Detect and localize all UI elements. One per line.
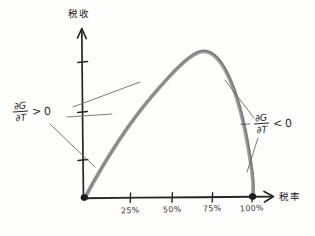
- fraction-right-denominator: ∂T: [255, 124, 268, 134]
- x-axis: [84, 192, 274, 203]
- annotation-right-dash: —: [240, 117, 252, 131]
- laffer-curve: [85, 51, 254, 198]
- fraction-left-numerator: ∂G: [13, 101, 28, 111]
- endpoint-dot-100pct: [249, 193, 256, 200]
- y-axis-label: 税收: [68, 9, 89, 19]
- fraction-left-denominator: ∂T: [14, 112, 27, 122]
- annotation-left-positive-slope: ∂G ∂T > 0: [13, 101, 51, 122]
- value-right: 0: [285, 117, 293, 130]
- x-tick-label-75: 75%: [203, 205, 222, 214]
- leader-line-left-mid: [67, 114, 112, 117]
- laffer-curve-figure: 税收 税率 25% 50% 75% 100% ∂G ∂T > 0 — ∂G ∂T…: [0, 0, 315, 236]
- fraction-right: ∂G ∂T: [253, 113, 269, 135]
- x-tick-label-100: 100%: [240, 204, 264, 213]
- leader-line-left-lower: [50, 124, 95, 167]
- value-left: 0: [44, 105, 52, 118]
- annotation-right-negative-slope: — ∂G ∂T < 0: [240, 113, 292, 134]
- x-tick-label-50: 50%: [163, 206, 182, 215]
- fraction-left: ∂G ∂T: [12, 101, 28, 123]
- relation-left: >: [31, 105, 42, 119]
- relation-right: <: [272, 117, 283, 131]
- y-axis: [78, 29, 87, 199]
- origin-dot: [81, 194, 88, 201]
- fraction-right-numerator: ∂G: [254, 113, 269, 123]
- x-axis-label: 税率: [279, 192, 300, 202]
- x-tick-label-25: 25%: [121, 207, 140, 216]
